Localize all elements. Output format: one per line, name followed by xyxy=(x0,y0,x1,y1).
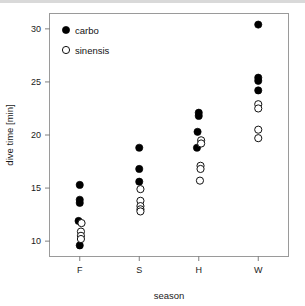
legend: carbo sinensis xyxy=(62,25,109,56)
x-tick-label: S xyxy=(136,265,142,275)
legend-marker-sinensis xyxy=(62,46,69,53)
x-axis-title: season xyxy=(154,290,185,301)
legend-marker-carbo xyxy=(62,26,69,33)
data-point-sinensis xyxy=(196,177,203,184)
y-axis-ticks: 1015202530 xyxy=(31,24,50,246)
top-border-strip xyxy=(0,0,305,3)
data-point-sinensis xyxy=(255,105,262,112)
y-tick-label: 25 xyxy=(31,77,41,87)
data-point-carbo xyxy=(194,128,201,135)
x-axis-ticks: FSHW xyxy=(77,256,263,275)
data-point-carbo xyxy=(255,87,262,94)
data-point-sinensis xyxy=(197,165,204,172)
series-sinensis-points xyxy=(77,101,262,243)
data-point-carbo xyxy=(76,181,83,188)
data-point-carbo xyxy=(136,178,143,185)
legend-label-carbo: carbo xyxy=(75,25,99,36)
scatter-plot-figure: 1015202530 FSHW season dive time [min] c… xyxy=(0,0,305,306)
data-point-sinensis xyxy=(137,186,144,193)
data-point-sinensis xyxy=(77,235,84,242)
data-point-carbo xyxy=(255,21,262,28)
data-point-carbo xyxy=(76,199,83,206)
data-point-sinensis xyxy=(255,135,262,142)
data-point-carbo xyxy=(136,144,143,151)
x-tick-label: F xyxy=(77,265,83,275)
x-tick-label: H xyxy=(196,265,203,275)
data-point-carbo xyxy=(136,165,143,172)
data-point-carbo xyxy=(255,77,262,84)
data-point-sinensis xyxy=(78,220,85,227)
y-tick-label: 10 xyxy=(31,236,41,246)
legend-label-sinensis: sinensis xyxy=(75,45,110,56)
data-point-sinensis xyxy=(255,126,262,133)
data-point-sinensis xyxy=(137,208,144,215)
data-point-carbo xyxy=(195,112,202,119)
plot-canvas: 1015202530 FSHW season dive time [min] c… xyxy=(0,0,305,306)
y-axis-title: dive time [min] xyxy=(4,104,15,165)
y-tick-label: 30 xyxy=(31,24,41,34)
y-tick-label: 20 xyxy=(31,130,41,140)
data-point-sinensis xyxy=(198,140,205,147)
y-tick-label: 15 xyxy=(31,183,41,193)
x-tick-label: W xyxy=(254,265,263,275)
